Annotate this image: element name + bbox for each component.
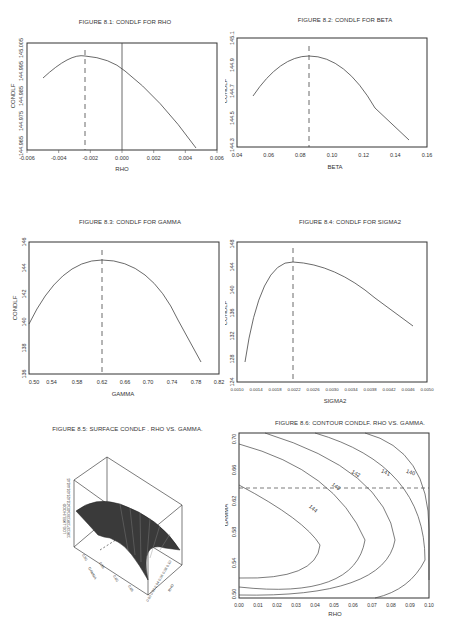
svg-text:0.14: 0.14 <box>390 152 401 158</box>
svg-text:138: 138 <box>21 343 27 352</box>
svg-text:0.66: 0.66 <box>231 465 237 476</box>
svg-text:0.70: 0.70 <box>143 379 154 385</box>
svg-text:GAMMA: GAMMA <box>225 504 229 527</box>
svg-text:RHO: RHO <box>115 166 129 172</box>
svg-text:0.62: 0.62 <box>97 379 108 385</box>
svg-text:BETA: BETA <box>327 164 342 170</box>
svg-text:0.54: 0.54 <box>231 558 237 569</box>
svg-text:141: 141 <box>380 468 391 477</box>
svg-text:0.0050: 0.0050 <box>420 387 434 392</box>
svg-text:0.0038: 0.0038 <box>363 387 377 392</box>
svg-text:0.66: 0.66 <box>120 379 131 385</box>
svg-text:0.10: 0.10 <box>327 152 338 158</box>
svg-text:LOG-LIKELIHOOD: LOG-LIKELIHOOD <box>63 503 67 534</box>
svg-text:144: 144 <box>21 263 27 272</box>
svg-text:144.975: 144.975 <box>18 111 24 131</box>
svg-text:132: 132 <box>229 331 235 340</box>
svg-text:0.16: 0.16 <box>422 152 433 158</box>
svg-text:0.07: 0.07 <box>367 602 377 608</box>
svg-text:0.03: 0.03 <box>291 602 301 608</box>
svg-text:0.82: 0.82 <box>214 379 225 385</box>
figure-8-6-title: FIGURE 8.6: CONTOUR CONDLF. RHO VS. GAMM… <box>255 420 445 426</box>
svg-text:144.7: 144.7 <box>229 84 235 98</box>
svg-text:0.08: 0.08 <box>386 602 396 608</box>
svg-text:CONDLF: CONDLF <box>225 78 228 103</box>
svg-text:GAMMA: GAMMA <box>87 567 98 581</box>
svg-text:136: 136 <box>229 308 235 317</box>
svg-text:RHO: RHO <box>328 611 342 617</box>
svg-text:0.05: 0.05 <box>329 602 339 608</box>
figure-8-3-title: FIGURE 8.3: CONDLF FOR GAMMA <box>50 219 210 225</box>
svg-text:0.58: 0.58 <box>72 379 83 385</box>
svg-text:0.12: 0.12 <box>358 152 369 158</box>
svg-text:0.54: 0.54 <box>46 379 57 385</box>
svg-text:0.0034: 0.0034 <box>344 387 358 392</box>
svg-text:0.74: 0.74 <box>167 379 178 385</box>
figure-8-4-title: FIGURE 8.4: CONDLF FOR SIGMA2 <box>270 219 430 225</box>
svg-text:140: 140 <box>229 285 235 294</box>
svg-text:0.04: 0.04 <box>232 152 243 158</box>
svg-text:140: 140 <box>405 468 416 477</box>
svg-text:0.50: 0.50 <box>81 554 88 562</box>
svg-text:0.00: 0.00 <box>234 602 244 608</box>
svg-text:0.62: 0.62 <box>231 496 237 507</box>
figure-8-6-chart: 144 143 142 141 140 0.000.010.020.030.04… <box>225 430 449 617</box>
svg-text:144.3: 144.3 <box>229 138 235 152</box>
svg-text:0.0014: 0.0014 <box>249 387 263 392</box>
figure-8-1-chart: -0.006-0.004-0.0020.0000.0020.0040.006 R… <box>0 28 225 203</box>
svg-text:SIGMA2: SIGMA2 <box>324 398 347 404</box>
svg-text:0.09: 0.09 <box>405 602 415 608</box>
svg-text:146: 146 <box>21 237 27 246</box>
svg-text:0.0042: 0.0042 <box>382 387 396 392</box>
svg-text:-0.004: -0.004 <box>51 155 67 161</box>
svg-text:0.70: 0.70 <box>231 434 237 445</box>
svg-text:CONDLF: CONDLF <box>10 83 16 108</box>
svg-text:0.000: 0.000 <box>115 155 129 161</box>
svg-text:0.002: 0.002 <box>147 155 161 161</box>
svg-text:RHO: RHO <box>167 583 175 592</box>
figure-8-2-title: FIGURE 8.2: CONDLF FOR BETA <box>265 17 425 23</box>
figure-8-1-title: FIGURE 8.1: CONDLF FOR RHO <box>45 19 205 25</box>
svg-text:142: 142 <box>21 289 27 298</box>
svg-text:144.5: 144.5 <box>229 111 235 125</box>
svg-text:0.08: 0.08 <box>295 152 306 158</box>
svg-text:145.005: 145.005 <box>18 38 24 58</box>
svg-text:0.0026: 0.0026 <box>306 387 320 392</box>
svg-text:0.0022: 0.0022 <box>287 387 301 392</box>
svg-text:143: 143 <box>331 481 342 491</box>
figure-8-2-chart: 0.040.060.080.100.120.140.16 BETA 144.3 … <box>225 28 449 203</box>
svg-text:0.06: 0.06 <box>348 602 358 608</box>
svg-text:144.985: 144.985 <box>18 86 24 106</box>
svg-text:0.0046: 0.0046 <box>401 387 415 392</box>
svg-text:0.02: 0.02 <box>272 602 282 608</box>
svg-text:0.0030: 0.0030 <box>325 387 339 392</box>
svg-text:144.995: 144.995 <box>18 61 24 81</box>
svg-text:0.78: 0.78 <box>191 379 202 385</box>
svg-text:0.04: 0.04 <box>310 602 320 608</box>
svg-text:0.00 0.02 0.04 0.06 0.08 0.10: 0.00 0.02 0.04 0.06 0.08 0.10 <box>145 560 172 603</box>
svg-text:0.50: 0.50 <box>231 589 237 600</box>
svg-text:144: 144 <box>308 503 319 514</box>
svg-text:0.58: 0.58 <box>231 527 237 538</box>
svg-text:128: 128 <box>229 354 235 363</box>
svg-text:148: 148 <box>229 239 235 248</box>
svg-text:0.004: 0.004 <box>178 155 192 161</box>
figure-8-3-chart: 0.500.540.580.620.660.700.740.780.82 GAM… <box>0 230 225 410</box>
figure-8-4-chart: 0.00100.00140.00180.00220.00260.00300.00… <box>225 230 449 410</box>
svg-text:144.965: 144.965 <box>18 136 24 156</box>
svg-text:CONDLF: CONDLF <box>12 295 18 320</box>
svg-text:144: 144 <box>229 262 235 271</box>
svg-text:140: 140 <box>21 317 27 326</box>
svg-text:0.10: 0.10 <box>424 602 434 608</box>
svg-text:142: 142 <box>351 468 362 478</box>
svg-text:0.0010: 0.0010 <box>230 387 244 392</box>
svg-text:0.01: 0.01 <box>253 602 263 608</box>
svg-text:145.1: 145.1 <box>229 31 235 45</box>
svg-text:0.0018: 0.0018 <box>268 387 282 392</box>
svg-text:144.9: 144.9 <box>229 58 235 72</box>
svg-text:0.06: 0.06 <box>263 152 274 158</box>
svg-text:CONDLF: CONDLF <box>225 300 228 325</box>
svg-text:GAMMA: GAMMA <box>112 391 135 397</box>
svg-text:0.55: 0.55 <box>98 562 105 570</box>
figure-8-5-chart: 136137138139140141142143144145 LOG-LIKEL… <box>0 430 225 617</box>
